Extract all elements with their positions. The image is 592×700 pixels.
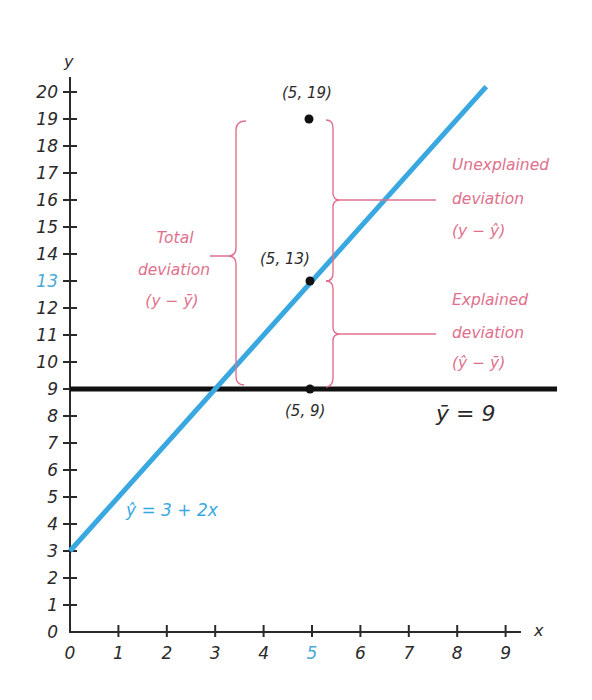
y-tick-label: 3 bbox=[47, 541, 58, 561]
x-tick-label: 9 bbox=[500, 643, 511, 663]
explained-line-2: deviation bbox=[452, 324, 524, 342]
total-deviation-bracket bbox=[210, 121, 246, 385]
unexplained-deviation-label: Unexplained deviation (y − ŷ) bbox=[452, 156, 549, 240]
y-tick-label: 16 bbox=[36, 190, 58, 210]
point-5-9 bbox=[306, 385, 315, 394]
regression-equation-label: ŷ = 3 + 2x bbox=[125, 500, 219, 520]
x-tick-label: 0 bbox=[65, 643, 76, 663]
x-axis-label: x bbox=[533, 621, 544, 640]
y-tick-label: 8 bbox=[47, 406, 58, 426]
x-tick-label: 1 bbox=[113, 643, 124, 663]
x-tick-label: 3 bbox=[210, 643, 221, 663]
y-tick-label: 18 bbox=[36, 136, 58, 156]
total-deviation-label: Total deviation (y − ȳ) bbox=[138, 229, 210, 310]
x-tick-label: 6 bbox=[355, 643, 366, 663]
point-5-19 bbox=[305, 115, 314, 124]
x-tick-label: 2 bbox=[161, 643, 172, 663]
unexplained-line-2: deviation bbox=[452, 190, 524, 208]
x-tick-label: 8 bbox=[452, 643, 463, 663]
y-tick-label: 9 bbox=[47, 379, 58, 399]
y-tick-label: 4 bbox=[47, 514, 58, 534]
y-tick-label: 15 bbox=[36, 217, 58, 237]
y-tick-label: 17 bbox=[36, 163, 58, 183]
x-tick-label: 4 bbox=[258, 643, 269, 663]
y-tick-label: 11 bbox=[36, 325, 58, 345]
explained-line-1: Explained bbox=[452, 291, 528, 309]
regression-line bbox=[70, 87, 486, 551]
total-line-1: Total bbox=[157, 229, 195, 247]
y-axis-label: y bbox=[63, 52, 74, 71]
point-label-5-19: (5, 19) bbox=[282, 84, 332, 102]
regression-deviation-chart: 01234567891011121314151617181920 0123456… bbox=[0, 0, 592, 700]
y-tick-label: 0 bbox=[47, 622, 58, 642]
y-tick-label: 1 bbox=[47, 595, 58, 615]
unexplained-line-3: (y − ŷ) bbox=[452, 222, 505, 240]
explained-deviation-bracket bbox=[326, 281, 340, 387]
explained-deviation-label: Explained deviation (ŷ − ȳ) bbox=[452, 291, 528, 372]
y-tick-label: 13 bbox=[36, 271, 58, 291]
y-tick-label: 5 bbox=[47, 487, 58, 507]
point-label-5-13: (5, 13) bbox=[260, 250, 310, 268]
x-tick-label: 7 bbox=[403, 643, 414, 663]
y-tick-label: 10 bbox=[36, 352, 58, 372]
y-tick-label: 6 bbox=[47, 460, 58, 480]
y-tick-label: 20 bbox=[36, 82, 58, 102]
x-tick-label: 5 bbox=[307, 643, 318, 663]
mean-equation-label: ȳ = 9 bbox=[435, 401, 495, 426]
total-line-2: deviation bbox=[138, 261, 210, 279]
y-tick-label: 19 bbox=[36, 109, 58, 129]
y-tick-label: 12 bbox=[36, 298, 58, 318]
y-tick-label: 7 bbox=[47, 433, 58, 453]
unexplained-line-1: Unexplained bbox=[452, 156, 549, 174]
y-tick-label: 14 bbox=[36, 244, 58, 264]
x-ticks: 0123456789 bbox=[65, 625, 511, 663]
point-label-5-9: (5, 9) bbox=[285, 402, 325, 420]
y-tick-label: 2 bbox=[47, 568, 58, 588]
deviation-brackets bbox=[210, 120, 436, 387]
total-line-3: (y − ȳ) bbox=[145, 292, 198, 310]
point-5-13 bbox=[306, 277, 315, 286]
explained-line-3: (ŷ − ȳ) bbox=[452, 354, 505, 372]
unexplained-deviation-bracket bbox=[326, 120, 340, 281]
